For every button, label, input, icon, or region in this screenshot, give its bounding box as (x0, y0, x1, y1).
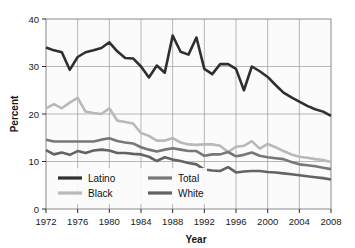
legend-label-white: White (178, 188, 204, 199)
x-tick-label: 2004 (289, 216, 310, 227)
y-tick-label: 20 (28, 109, 39, 120)
x-tick-label: 1988 (162, 216, 183, 227)
legend-label-latino: Latino (88, 173, 116, 184)
y-axis-label: Percent (9, 95, 20, 132)
y-tick-label: 10 (28, 156, 39, 167)
x-axis-label: Year (185, 234, 206, 245)
y-tick-label: 30 (28, 61, 39, 72)
chart-legend: LatinoBlackTotalWhite (52, 168, 207, 204)
y-tick-label: 40 (28, 14, 39, 25)
line-chart: 010203040 197219761980198419881992199620… (0, 0, 355, 248)
x-axis-ticks: 1972197619801984198819921996200020042008 (35, 209, 341, 227)
x-tick-label: 1980 (99, 216, 120, 227)
y-axis-ticks: 010203040 (28, 14, 46, 215)
x-tick-label: 1992 (194, 216, 215, 227)
x-tick-label: 1972 (35, 216, 56, 227)
x-tick-label: 1976 (67, 216, 88, 227)
y-tick-label: 0 (34, 204, 39, 215)
x-tick-label: 2008 (320, 216, 341, 227)
legend-label-total: Total (178, 173, 199, 184)
legend-label-black: Black (88, 188, 113, 199)
x-tick-label: 2000 (257, 216, 278, 227)
x-tick-label: 1996 (225, 216, 246, 227)
x-tick-label: 1984 (130, 216, 151, 227)
chart-page: 010203040 197219761980198419881992199620… (0, 0, 355, 248)
